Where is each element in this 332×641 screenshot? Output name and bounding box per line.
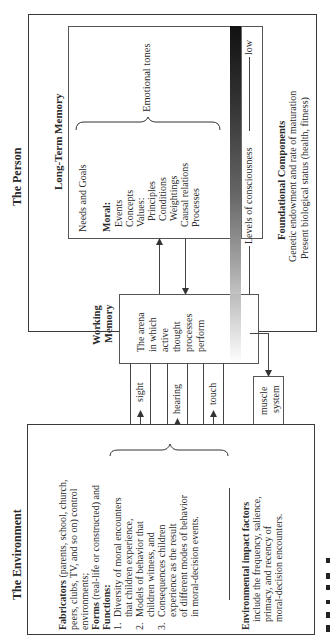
emotional-tones-brace-icon	[74, 116, 222, 132]
arrow-up-icon	[210, 410, 217, 417]
channel-line	[187, 363, 188, 425]
function-1-num: 1.	[112, 623, 123, 631]
channel-line	[167, 363, 168, 425]
to-muscle-h	[250, 333, 268, 334]
wm-desc-6: perform	[195, 320, 206, 352]
long-term-memory-title: Long-Term Memory	[52, 94, 64, 190]
channel-line	[130, 363, 131, 425]
page-edge-mark	[326, 600, 330, 604]
function-1-line1: Diversity of moral encounters	[112, 497, 123, 617]
value-principles: Principles	[146, 181, 157, 221]
function-3-line4: in moral-decision events.	[189, 516, 200, 617]
function-2-num: 2.	[134, 623, 145, 631]
arrow-up-icon	[156, 238, 163, 245]
working-memory-title-2: Memory	[103, 305, 114, 343]
sense-touch: touch	[207, 383, 218, 405]
working-memory-title-1: Working	[91, 305, 102, 345]
channel-line	[223, 363, 224, 425]
impact-label: Environmental impact factors	[240, 502, 251, 630]
moral-item-events: Events	[113, 200, 124, 227]
page-edge-mark	[326, 558, 330, 563]
function-3-num: 3.	[156, 623, 167, 631]
forms-line: Forms (real-life or constructed) and	[90, 485, 101, 630]
value-causal-relations: Causal relations	[179, 163, 190, 227]
wm-desc-4: thought	[171, 321, 182, 352]
page-edge-mark	[326, 585, 330, 590]
function-1-line2: that children experience,	[123, 518, 134, 617]
fabricators-line1: Fabricators (parents, school, church,	[57, 479, 68, 630]
wm-desc-2: in which	[147, 317, 158, 352]
page-edge-mark	[326, 612, 330, 618]
page-edge-mark	[326, 625, 330, 632]
consciousness-levels-label: Levels of consciousness	[243, 147, 254, 244]
impact-line3: moral-decision encounters.	[273, 514, 284, 622]
value-conditions: Conditions	[157, 177, 168, 221]
moral-item-concepts: Concepts	[124, 190, 135, 227]
foundational-line1: Genetic endowment and rate of maturation	[287, 91, 298, 262]
foundational-title: Foundational Components	[276, 121, 287, 240]
fabricators-label: Fabricators	[57, 580, 68, 630]
wm-desc-1: The arena	[135, 312, 146, 352]
forms-text: (real-life or constructed) and	[90, 485, 101, 602]
consciousness-gradient-bar-lower	[230, 294, 241, 363]
consciousness-gradient-bar	[230, 26, 241, 332]
fabricators-line3: environments;	[79, 573, 90, 630]
wm-desc-3: active	[159, 328, 170, 352]
function-2-line2: children witness, and	[145, 532, 156, 617]
value-processes: Processes	[190, 188, 201, 227]
muscle-label-2: system	[270, 385, 281, 413]
functions-brace-icon	[108, 442, 230, 458]
channel-line	[203, 363, 204, 425]
moral-label: Moral:	[101, 202, 112, 232]
environment-title: The Environment	[10, 509, 25, 600]
needs-goals-label: Needs and Goals	[77, 164, 88, 232]
sense-sight: sight	[134, 383, 145, 402]
fabricators-line2: peers, clubs, TV, and so on) control	[68, 488, 79, 630]
emotional-tones-label: Emotional tones	[141, 43, 152, 112]
page-edge-mark	[326, 573, 330, 579]
function-3-line2: experience as the result	[167, 523, 178, 617]
fabricators-text-1: (parents, school, church,	[57, 479, 68, 580]
value-weightings: Weightings	[168, 176, 179, 221]
functions-label: Functions:	[101, 584, 112, 630]
moral-item-values: Values:	[135, 198, 146, 227]
arrow-up-icon	[137, 410, 144, 417]
consciousness-line-top	[249, 57, 250, 131]
wm-desc-5: processes	[183, 314, 194, 352]
function-2-line1: Models of behavior that	[134, 521, 145, 617]
forms-label: Forms	[90, 602, 101, 630]
channel-line	[150, 363, 151, 425]
wm-to-ltm-connector	[159, 240, 160, 295]
impact-line1: include the frequency, salience,	[251, 496, 262, 622]
ltm-right-edge	[241, 26, 242, 239]
environment-divider	[229, 488, 230, 600]
muscle-label-1: muscle	[258, 387, 269, 415]
impact-line2: primacy, and recency of	[262, 526, 273, 622]
ltm-to-wm-connector	[185, 239, 186, 294]
sense-hearing: hearing	[171, 384, 182, 414]
function-3-line3: of different modes of behavior	[178, 495, 189, 617]
consciousness-low-label: low	[243, 40, 254, 55]
function-3-line1: Consequences children	[156, 525, 167, 617]
foundational-line2: Present biological status (health, fitne…	[299, 97, 310, 259]
person-title: The Person	[10, 148, 25, 206]
